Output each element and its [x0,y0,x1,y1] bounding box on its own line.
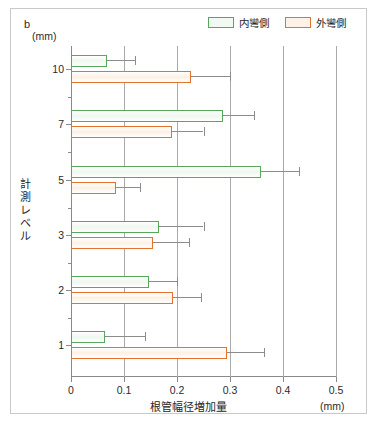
error-bar [172,131,204,132]
error-bar-cap [189,238,190,247]
y-axis-tick-label: 7 [58,118,64,130]
error-bar [261,171,299,172]
y-axis-tick [66,345,71,346]
bar-group-5-外彎側 [71,182,336,194]
x-axis-tick-label: 0.1 [117,384,132,396]
error-bar [191,76,230,77]
x-axis-unit: (mm) [320,400,345,412]
y-axis-tick [66,290,71,291]
legend-swatch-inner-icon [208,17,234,28]
legend-label-outer: 外彎側 [316,15,346,30]
error-bar-cap [204,127,205,136]
bar-group-2-外彎側 [71,292,336,304]
error-bar-cap [299,167,300,176]
bar [71,292,173,304]
y-axis-tick-label: 2 [58,284,64,296]
y-axis-tick [66,235,71,236]
bar [71,237,153,249]
y-axis-tick [66,124,71,125]
error-bar [107,60,135,61]
plot-area [71,46,336,377]
x-axis-tick-label: 0 [68,384,74,396]
y-axis-tick-label: 3 [58,229,64,241]
y-axis-line [71,46,72,377]
y-axis-tick [66,180,71,181]
bar-group-10-内彎側 [71,55,336,67]
y-axis-tick-labels: 1075321 [36,46,64,377]
bar [71,166,261,178]
bar [71,331,105,343]
bar-group-3-内彎側 [71,221,336,233]
gridline [336,46,337,377]
error-bar [116,187,140,188]
y-axis-tick-label: 5 [58,174,64,186]
x-axis-ticks: 00.10.20.30.40.5 [71,377,337,383]
bar [71,276,149,288]
y-axis-minor-tick [68,318,71,319]
bar-group-7-外彎側 [71,126,336,138]
y-axis-minor-tick [68,152,71,153]
y-axis-minor-tick [68,263,71,264]
bar-group-7-内彎側 [71,110,336,122]
x-axis-tick [336,377,337,382]
x-axis-tick [177,377,178,382]
y-axis-minor-tick [68,97,71,98]
bar [71,221,159,233]
y-axis-unit: (mm) [32,30,57,42]
x-axis-tick-label: 0.2 [170,384,185,396]
error-bar [227,352,265,353]
error-bar [153,242,189,243]
error-bar-cap [201,293,202,302]
figure-panel-b: b 内彎側 外彎側 (mm) 計測レベル 1075321 00.10.20.30… [0,0,377,427]
x-axis-tick [71,377,72,382]
error-bar [105,336,145,337]
bar [71,347,227,359]
gridline [230,46,231,377]
gridline [177,46,178,377]
x-axis-tick [124,377,125,382]
legend-label-inner: 内彎側 [239,15,269,30]
bar [71,182,116,194]
bar [71,126,172,138]
error-bar-cap [145,332,146,341]
x-axis-tick [230,377,231,382]
x-axis-tick [283,377,284,382]
error-bar [173,297,201,298]
y-axis-tick-label: 1 [58,339,64,351]
legend-item-inner: 内彎側 [208,15,269,30]
error-bar [223,115,254,116]
legend: 内彎側 外彎側 [208,15,346,30]
bar-group-10-外彎側 [71,71,336,83]
bar-group-2-内彎側 [71,276,336,288]
legend-item-outer: 外彎側 [285,15,346,30]
error-bar-cap [264,348,265,357]
y-axis-tick-label: 10 [52,63,64,75]
error-bar-cap [204,222,205,231]
gridline [124,46,125,377]
error-bar-cap [177,277,178,286]
bar [71,110,223,122]
gridline [283,46,284,377]
y-axis-minor-tick [68,208,71,209]
error-bar-cap [230,72,231,81]
bar [71,55,107,67]
y-axis-title: 計測レベル [18,178,32,243]
error-bar-cap [135,56,136,65]
error-bar [159,226,204,227]
y-axis-tick [66,69,71,70]
error-bar-cap [254,111,255,120]
error-bar-cap [140,183,141,192]
error-bar [149,281,177,282]
panel-letter: b [24,18,30,30]
x-axis-tick-label: 0.4 [276,384,291,396]
bar [71,71,191,83]
bar-group-1-内彎側 [71,331,336,343]
legend-swatch-outer-icon [285,17,311,28]
x-axis-tick-label: 0.5 [329,384,344,396]
x-axis-tick-label: 0.3 [223,384,238,396]
bar-group-3-外彎側 [71,237,336,249]
bar-group-5-内彎側 [71,166,336,178]
bar-group-1-外彎側 [71,347,336,359]
